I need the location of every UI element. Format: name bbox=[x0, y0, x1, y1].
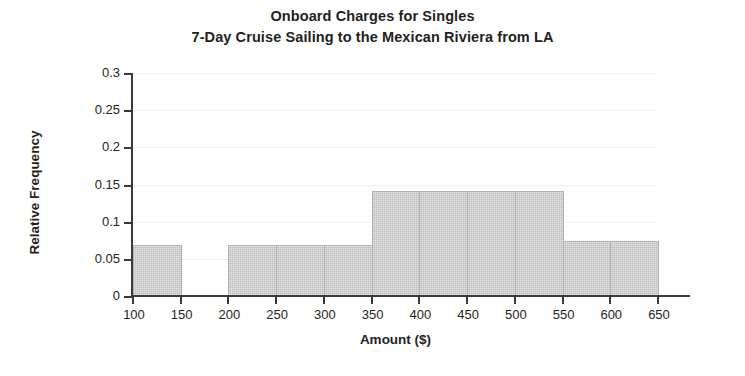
chart-title: Onboard Charges for Singles 7-Day Cruise… bbox=[0, 6, 745, 48]
chart-title-line-2: 7-Day Cruise Sailing to the Mexican Rivi… bbox=[0, 27, 745, 48]
plot-area bbox=[133, 74, 658, 297]
y-tick-label-0.2: 0.2 bbox=[60, 139, 120, 154]
y-tick-label-0.05: 0.05 bbox=[60, 251, 120, 266]
chart-title-line-1: Onboard Charges for Singles bbox=[0, 6, 745, 27]
bar-600-650 bbox=[610, 241, 659, 297]
bar-250-300 bbox=[276, 245, 325, 297]
gridline-y-0.25 bbox=[133, 110, 658, 111]
bar-450-500 bbox=[467, 191, 516, 297]
bar-200-250 bbox=[228, 245, 277, 297]
y-tick-label-0: 0 bbox=[60, 288, 120, 303]
gridline-y-0.2 bbox=[133, 147, 658, 148]
bar-100-150 bbox=[133, 245, 182, 297]
x-tick-150 bbox=[180, 295, 182, 304]
x-tick-250 bbox=[275, 295, 277, 304]
y-tick-0.15 bbox=[124, 185, 132, 187]
y-tick-label-0.15: 0.15 bbox=[60, 177, 120, 192]
y-tick-0.3 bbox=[124, 73, 132, 75]
histogram-figure: Onboard Charges for Singles 7-Day Cruise… bbox=[0, 0, 745, 376]
x-tick-100 bbox=[132, 295, 134, 304]
y-axis-label: Relative Frequency bbox=[27, 113, 42, 273]
x-tick-300 bbox=[323, 295, 325, 304]
x-tick-650 bbox=[657, 295, 659, 304]
y-tick-0.05 bbox=[124, 259, 132, 261]
y-tick-label-0.1: 0.1 bbox=[60, 214, 120, 229]
x-tick-450 bbox=[466, 295, 468, 304]
bar-350-400 bbox=[372, 191, 421, 297]
x-tick-400 bbox=[418, 295, 420, 304]
x-tick-200 bbox=[227, 295, 229, 304]
x-axis-line bbox=[131, 295, 690, 297]
bar-300-350 bbox=[324, 245, 373, 297]
gridline-y-0.3 bbox=[133, 73, 658, 74]
y-tick-label-0.25: 0.25 bbox=[60, 102, 120, 117]
y-tick-0.25 bbox=[124, 110, 132, 112]
gridline-y-0.15 bbox=[133, 185, 658, 186]
bar-400-450 bbox=[419, 191, 468, 297]
x-axis-label: Amount ($) bbox=[133, 332, 658, 347]
y-tick-0.2 bbox=[124, 147, 132, 149]
x-tick-350 bbox=[371, 295, 373, 304]
bar-500-550 bbox=[515, 191, 564, 297]
bar-550-600 bbox=[563, 241, 612, 297]
x-tick-600 bbox=[609, 295, 611, 304]
x-tick-label-650: 650 bbox=[629, 307, 689, 322]
x-tick-500 bbox=[514, 295, 516, 304]
y-tick-0 bbox=[124, 296, 132, 298]
y-tick-label-0.3: 0.3 bbox=[60, 65, 120, 80]
y-tick-0.1 bbox=[124, 222, 132, 224]
x-tick-550 bbox=[562, 295, 564, 304]
